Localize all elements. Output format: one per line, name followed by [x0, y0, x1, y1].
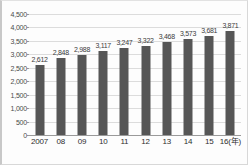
bar-slot[interactable]: 3,117 — [93, 14, 114, 135]
x-tick-label: 08 — [57, 137, 66, 147]
y-tick-label: 2,000 — [10, 78, 27, 85]
y-tick-label: 3,500 — [10, 37, 27, 44]
x-tick-label: 14 — [184, 137, 193, 147]
bar-slot[interactable]: 2,848 — [50, 14, 71, 135]
bar-value-label: 3,573 — [180, 30, 196, 37]
x-axis: 2007080910111213141516(年) — [29, 137, 241, 153]
bar-value-label: 3,117 — [95, 42, 111, 49]
y-tick-label: 3,000 — [10, 51, 27, 58]
x-tick-label: 10 — [99, 137, 108, 147]
bar[interactable] — [77, 55, 86, 135]
bar[interactable] — [99, 51, 108, 135]
bar-value-label: 3,247 — [116, 39, 132, 46]
y-tick-label: 0 — [23, 132, 27, 139]
x-tick-label: 16(年) — [220, 137, 241, 147]
bar-slot[interactable]: 2,612 — [29, 14, 50, 135]
bar[interactable] — [141, 46, 150, 135]
bar-slot[interactable]: 2,988 — [71, 14, 92, 135]
bar[interactable] — [56, 58, 65, 135]
bar[interactable] — [120, 48, 129, 135]
y-tick-label: 1,000 — [10, 105, 27, 112]
chart-frame: 05001,0001,5002,0002,5003,0003,5004,0004… — [0, 0, 248, 165]
bar[interactable] — [162, 42, 171, 135]
bar-slot[interactable]: 3,468 — [156, 14, 177, 135]
x-tick-label: 15 — [205, 137, 214, 147]
axis-baseline — [29, 135, 241, 136]
bar-value-label: 3,871 — [222, 22, 238, 29]
bar-slot[interactable]: 3,247 — [114, 14, 135, 135]
x-tick-label: 13 — [163, 137, 172, 147]
bar-value-label: 3,468 — [159, 33, 175, 40]
y-tick-label: 1,500 — [10, 91, 27, 98]
y-tick-label: 4,000 — [10, 24, 27, 31]
bar-slot[interactable]: 3,322 — [135, 14, 156, 135]
bar-value-label: 2,612 — [32, 56, 48, 63]
plot-area: 05001,0001,5002,0002,5003,0003,5004,0004… — [29, 14, 241, 135]
bar[interactable] — [35, 65, 44, 135]
bar-slot[interactable]: 3,871 — [220, 14, 241, 135]
bar-slot[interactable]: 3,681 — [199, 14, 220, 135]
bar[interactable] — [205, 36, 214, 135]
y-tick-label: 500 — [16, 118, 27, 125]
bar[interactable] — [226, 31, 235, 135]
x-tick-label: 11 — [120, 137, 128, 147]
bar-value-label: 3,322 — [138, 37, 154, 44]
y-tick-label: 2,500 — [10, 64, 27, 71]
y-tick-mark — [27, 135, 29, 136]
x-tick-label: 12 — [141, 137, 150, 147]
bar-slot[interactable]: 3,573 — [177, 14, 198, 135]
bar-value-label: 2,988 — [74, 46, 90, 53]
bar-value-label: 2,848 — [53, 49, 69, 56]
y-tick-label: 4,500 — [10, 11, 27, 18]
x-tick-label: 09 — [78, 137, 87, 147]
bar-value-label: 3,681 — [201, 27, 217, 34]
x-tick-label: 2007 — [31, 137, 48, 147]
bar[interactable] — [183, 39, 192, 135]
